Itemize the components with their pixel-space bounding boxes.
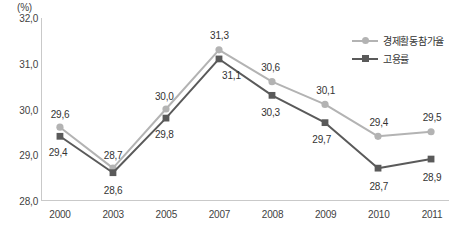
y-axis-tick: 30,0 [19, 104, 38, 115]
x-axis-tick: 2009 [315, 209, 336, 220]
data-point-marker [216, 56, 223, 63]
data-point-marker [427, 128, 434, 135]
legend-item-participation: 경제활동참가율 [352, 34, 444, 47]
x-axis-tick: 2011 [422, 209, 443, 220]
data-point-marker [56, 124, 63, 131]
x-axis-tick: 2007 [209, 209, 230, 220]
data-point-marker [269, 92, 276, 99]
line-chart: (%) 32,031,030,029,028,0 200020032005200… [0, 0, 464, 230]
legend-label-employment: 고용률 [383, 51, 409, 66]
chart-legend: 경제활동참가율 고용률 [352, 34, 444, 65]
data-point-marker [215, 46, 222, 53]
data-point-marker [374, 133, 381, 140]
data-point-marker [163, 115, 170, 122]
legend-item-employment: 고용률 [352, 52, 444, 65]
data-point-marker [110, 169, 117, 176]
x-axis-tick: 2005 [156, 209, 177, 220]
data-point-marker [321, 101, 328, 108]
y-axis-tick: 29,0 [19, 150, 38, 161]
x-axis-tick: 2008 [262, 209, 283, 220]
data-point-marker [375, 165, 382, 172]
y-axis-unit-label: (%) [17, 2, 32, 13]
legend-label-participation: 경제활동참가율 [383, 33, 444, 48]
series-line-employment [60, 59, 431, 173]
y-axis-tick: 32,0 [19, 13, 38, 24]
plot-area: 32,031,030,029,028,0 2000200320052007200… [41, 18, 449, 201]
square-marker-icon [352, 54, 378, 64]
series-line-participation [60, 50, 431, 168]
x-axis-tick: 2003 [102, 209, 123, 220]
circle-marker-icon [352, 36, 378, 46]
data-point-marker [57, 133, 64, 140]
y-axis-tick: 31,0 [19, 58, 38, 69]
x-axis-tick: 2010 [368, 209, 389, 220]
x-axis-tick: 2000 [49, 209, 70, 220]
data-point-marker [268, 78, 275, 85]
data-point-marker [322, 119, 329, 126]
y-axis-tick: 28,0 [19, 196, 38, 207]
data-point-marker [162, 105, 169, 112]
data-point-marker [428, 156, 435, 163]
